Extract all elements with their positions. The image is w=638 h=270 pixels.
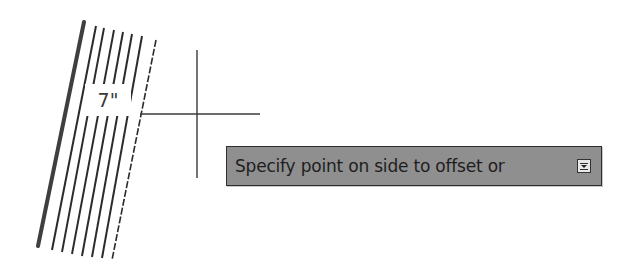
down-arrow-icon [579,161,589,171]
prompt-text: Specify point on side to offset or [235,156,505,176]
original-line [38,22,84,246]
offset-preview-line [112,40,156,260]
options-dropdown-button[interactable] [577,159,591,173]
offset-lines [52,26,142,258]
command-prompt-tooltip: Specify point on side to offset or [226,146,602,186]
dimension-label: 7" [85,84,131,116]
drawing-canvas[interactable] [0,0,638,270]
